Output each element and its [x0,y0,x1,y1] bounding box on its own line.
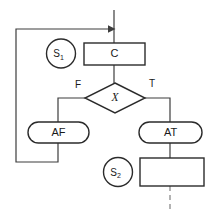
edge-decision-true-to-at [145,98,170,122]
edge-label-true: T [149,78,155,89]
node-decision-label: X [110,91,119,103]
diagram-canvas: S1 C X F T AF AT S2 [0,0,217,218]
node-condition-box-label: C [111,47,119,59]
edge-decision-false-to-af [58,98,85,122]
edge-label-false: F [75,79,81,90]
node-action-true-label: AT [164,126,178,138]
node-next-box[interactable] [140,158,204,186]
flowchart-svg: S1 C X F T AF AT S2 [0,0,217,218]
node-action-false-label: AF [51,126,65,138]
